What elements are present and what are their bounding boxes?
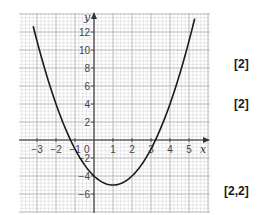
origin-label: 0 xyxy=(84,144,90,155)
quadratic-graph: −3−2−11234512108642−2−4−6 x y 0 xyxy=(0,0,269,215)
parabola-curve xyxy=(33,19,195,185)
y-tick-label: 12 xyxy=(79,27,91,38)
y-axis-arrow-icon xyxy=(91,12,97,19)
grid-minor xyxy=(19,13,210,213)
x-tick-label: 4 xyxy=(167,144,173,155)
y-tick-label: 6 xyxy=(84,81,90,92)
y-tick-label: 8 xyxy=(84,63,90,74)
y-tick-label: 2 xyxy=(84,117,90,128)
x-axis-label: x xyxy=(200,143,207,156)
x-tick-label: 2 xyxy=(129,144,135,155)
y-tick-label: −4 xyxy=(79,171,91,182)
marks-label-3: [2,2] xyxy=(224,184,249,198)
y-tick-label: 10 xyxy=(79,45,91,56)
axis-tick-labels: −3−2−11234512108642−2−4−6 xyxy=(31,27,192,200)
x-tick-label: −3 xyxy=(31,144,43,155)
y-axis-label: y xyxy=(83,11,91,24)
y-tick-label: 4 xyxy=(84,99,90,110)
x-tick-label: 5 xyxy=(186,144,192,155)
y-tick-label: −6 xyxy=(79,189,91,200)
marks-label-1: [2] xyxy=(234,57,249,71)
x-tick-label: −2 xyxy=(50,144,62,155)
marks-label-2: [2] xyxy=(234,97,249,111)
x-tick-label: 1 xyxy=(110,144,116,155)
